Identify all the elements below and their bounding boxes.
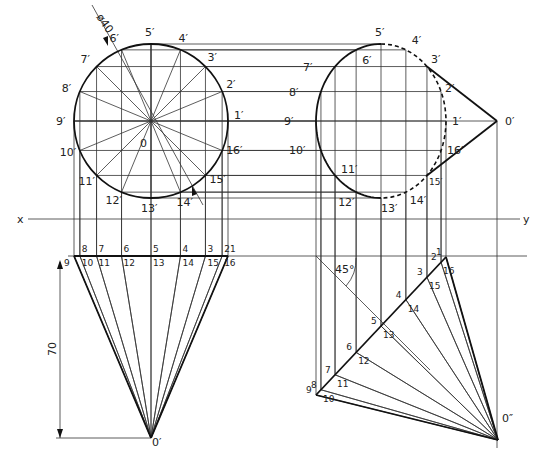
- center-label: 0: [140, 137, 147, 150]
- side-view-point-label: 11′: [341, 163, 358, 176]
- generator-line: [151, 256, 180, 438]
- height-dimension: 70: [46, 342, 59, 356]
- side-view-point-label: 6′: [362, 54, 372, 67]
- top-view-point-label: 15′: [209, 173, 226, 186]
- generator-line: [97, 256, 151, 438]
- top-view-point-label: 11′: [79, 175, 96, 188]
- side-view-point-label: 5′: [375, 26, 385, 39]
- generator-line: [122, 256, 151, 438]
- front-base-label: 5: [153, 244, 159, 254]
- cone-projection-drawing: 1′2′3′4′5′6′7′8′9′10′11′12′13′14′15′16′1…: [0, 0, 545, 468]
- top-view-point-label: 6′: [110, 32, 120, 45]
- x-label: x: [17, 213, 24, 226]
- inclined-base-label: 13: [383, 330, 394, 340]
- top-view-point-label: 4′: [178, 32, 188, 45]
- side-view-point-label: 12′: [338, 196, 355, 209]
- inclined-base-label: 11: [337, 379, 348, 389]
- outline-lines: [74, 44, 498, 440]
- front-base-label: 1: [230, 244, 236, 254]
- top-view-point-label: 14′: [176, 196, 193, 209]
- front-base-label: 12: [124, 258, 135, 268]
- side-view-point-label: 13′: [381, 202, 398, 215]
- front-base-label: 16: [224, 258, 236, 268]
- radial-line: [151, 67, 205, 121]
- front-base-label: 7: [99, 244, 105, 254]
- generator-line: [441, 262, 498, 440]
- side-view-point-label: 2′: [445, 82, 455, 95]
- right-top-apex-label: 0′: [505, 115, 515, 128]
- top-view-point-label: 5′: [145, 26, 155, 39]
- top-view-point-label: 7′: [81, 53, 91, 66]
- top-view-point-label: 1′: [234, 109, 244, 122]
- side-view-point-label: 15′: [429, 177, 443, 187]
- top-view-point-label: 16′: [226, 144, 243, 157]
- side-view-point-label: 4′: [412, 34, 422, 47]
- generator-line: [406, 300, 498, 440]
- arrowhead-icon: [103, 36, 108, 46]
- front-base-label: 11: [99, 258, 110, 268]
- inclined-base-label: 15: [429, 281, 440, 291]
- generator-line: [321, 390, 498, 440]
- inclined-base-label: 12: [358, 356, 369, 366]
- front-base-label: 13: [153, 258, 164, 268]
- inclined-base-label: 14: [408, 304, 420, 314]
- top-view-point-label: 2′: [226, 78, 236, 91]
- front-base-label: 8: [82, 244, 88, 254]
- arrowhead-icon: [192, 186, 197, 196]
- side-contour: [427, 67, 497, 121]
- side-view-point-label: 1′: [452, 115, 462, 128]
- angle-label: 45°: [335, 263, 355, 276]
- left-apex-label: 0′: [152, 436, 162, 449]
- radial-line: [97, 67, 151, 121]
- y-label: y: [523, 213, 530, 226]
- top-view-point-label: 9′: [56, 115, 66, 128]
- contour-generator: [74, 256, 151, 438]
- front-base-label: 4: [182, 244, 188, 254]
- inclined-base-label: 4: [396, 290, 402, 300]
- right-bottom-apex-label: 0″: [502, 412, 513, 425]
- front-base-label: 15: [207, 258, 218, 268]
- arrowhead-icon: [57, 429, 63, 438]
- front-base-label: 2: [224, 244, 230, 254]
- front-base-label: 3: [207, 244, 213, 254]
- generator-line: [151, 256, 205, 438]
- arrowhead-icon: [57, 260, 63, 269]
- generator-line: [381, 326, 498, 440]
- top-view-point-label: 8′: [62, 82, 72, 95]
- front-base-label: 9: [64, 258, 70, 268]
- radial-line: [151, 121, 205, 175]
- inclined-base-label: 5: [371, 316, 377, 326]
- top-view-point-label: 10′: [60, 146, 77, 159]
- inclined-base-label: 3: [417, 267, 423, 277]
- side-view-point-label: 7′: [303, 61, 313, 74]
- side-view-point-label: 9′: [284, 115, 294, 128]
- front-base-label: 14: [182, 258, 194, 268]
- front-base-label: 10: [82, 258, 94, 268]
- side-view-point-label: 14′: [410, 194, 427, 207]
- front-base-label: 6: [124, 244, 130, 254]
- inclined-base-label: 1: [436, 247, 442, 257]
- side-view-point-label: 3′: [431, 53, 441, 66]
- side-view-point-label: 8′: [289, 86, 299, 99]
- contour-generator: [151, 256, 228, 438]
- inclined-base-label: 6: [346, 342, 352, 352]
- side-view-point-label: 16′: [447, 144, 464, 157]
- top-view-point-label: 3′: [207, 51, 217, 64]
- side-view-point-label: 10′: [289, 144, 306, 157]
- top-view-point-label: 13′: [141, 202, 158, 215]
- inclined-base-label: 8: [311, 380, 317, 390]
- construction-lines: [28, 5, 527, 448]
- top-view-point-label: 12′: [106, 194, 123, 207]
- contour-generator: [316, 395, 498, 440]
- inclined-base-label: 10: [323, 394, 335, 404]
- inclined-base-label: 16: [443, 266, 455, 276]
- inclined-base-label: 7: [325, 365, 331, 375]
